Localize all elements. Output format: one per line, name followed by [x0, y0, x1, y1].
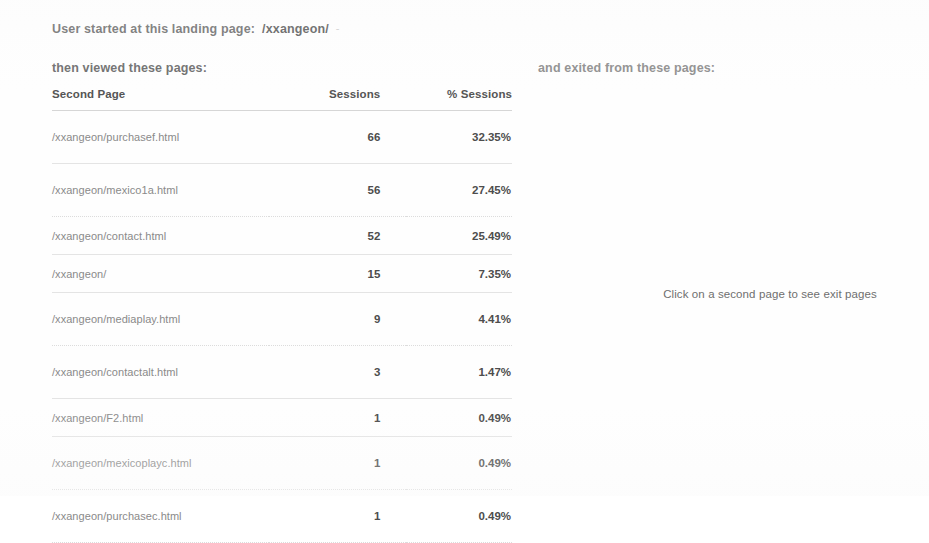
table-row[interactable]: /xxangeon/mexicoplayc.html 1 0.49% [52, 437, 512, 490]
page-url: /xxangeon/mexicoplayc.html [52, 456, 196, 470]
table-row[interactable]: /xxangeon/F2.html 1 0.49% [52, 399, 512, 437]
cell-second-page[interactable]: /xxangeon/mexicoplayc.html [52, 437, 269, 490]
cell-pct-sessions: 0.49% [406, 490, 512, 543]
table-row[interactable]: /xxangeon/contactalt.html 3 1.47% [52, 346, 512, 399]
landing-page-trailing-mark: - [336, 22, 340, 34]
cell-second-page[interactable]: /xxangeon/purchasef.html [52, 111, 269, 164]
cell-second-page[interactable]: /xxangeon/ [52, 255, 269, 293]
exited-from-heading: and exited from these pages: [538, 61, 715, 75]
then-viewed-heading: then viewed these pages: [52, 61, 207, 75]
cell-pct-sessions: 7.35% [406, 255, 512, 293]
cell-pct-sessions: 27.45% [406, 164, 512, 217]
table-row[interactable]: /xxangeon/contact.html 52 25.49% [52, 217, 512, 255]
cell-second-page[interactable]: /xxangeon/mexico1a.html [52, 164, 269, 217]
cell-pct-sessions: 0.49% [406, 437, 512, 490]
page-url: /xxangeon/contactalt.html [52, 365, 196, 379]
cell-pct-sessions: 0.49% [406, 399, 512, 437]
landing-page-value: /xxangeon/ [262, 22, 329, 36]
exit-pages-hint: Click on a second page to see exit pages [560, 288, 929, 300]
landing-page-label: User started at this landing page: [52, 22, 255, 36]
cell-sessions: 1 [269, 437, 407, 490]
cell-second-page[interactable]: /xxangeon/contact.html [52, 217, 269, 255]
cell-second-page[interactable]: /xxangeon/F2.html [52, 399, 269, 437]
table-body: /xxangeon/purchasef.html 66 32.35% /xxan… [52, 111, 512, 543]
cell-sessions: 9 [269, 293, 407, 346]
cell-second-page[interactable]: /xxangeon/purchasec.html [52, 490, 269, 543]
table-row[interactable]: /xxangeon/mexico1a.html 56 27.45% [52, 164, 512, 217]
cell-sessions: 1 [269, 490, 407, 543]
cell-second-page[interactable]: /xxangeon/contactalt.html [52, 346, 269, 399]
cell-sessions: 15 [269, 255, 407, 293]
table-header-row: Second Page Sessions % Sessions [52, 88, 512, 111]
table-row[interactable]: /xxangeon/purchasec.html 1 0.49% [52, 490, 512, 543]
cell-sessions: 1 [269, 399, 407, 437]
column-header-second-page[interactable]: Second Page [52, 88, 269, 111]
page-url: /xxangeon/mexico1a.html [52, 183, 196, 197]
page-url: /xxangeon/contact.html [52, 229, 196, 243]
cell-second-page[interactable]: /xxangeon/mediaplay.html [52, 293, 269, 346]
column-header-sessions[interactable]: Sessions [269, 88, 407, 111]
table-row[interactable]: /xxangeon/ 15 7.35% [52, 255, 512, 293]
page-url: /xxangeon/mediaplay.html [52, 312, 196, 326]
cell-pct-sessions: 32.35% [406, 111, 512, 164]
page-url: /xxangeon/ [52, 267, 196, 281]
cell-sessions: 52 [269, 217, 407, 255]
table-header: Second Page Sessions % Sessions [52, 88, 512, 111]
column-header-pct-sessions[interactable]: % Sessions [406, 88, 512, 111]
cell-pct-sessions: 1.47% [406, 346, 512, 399]
cell-pct-sessions: 4.41% [406, 293, 512, 346]
table-row[interactable]: /xxangeon/mediaplay.html 9 4.41% [52, 293, 512, 346]
second-pages-table: Second Page Sessions % Sessions /xxangeo… [52, 88, 512, 543]
cell-sessions: 66 [269, 111, 407, 164]
page-url: /xxangeon/purchasef.html [52, 130, 196, 144]
cell-sessions: 56 [269, 164, 407, 217]
page-url: /xxangeon/F2.html [52, 411, 196, 425]
page-url: /xxangeon/purchasec.html [52, 509, 196, 523]
landing-page-heading: User started at this landing page:/xxang… [52, 22, 340, 36]
cell-sessions: 3 [269, 346, 407, 399]
table-row[interactable]: /xxangeon/purchasef.html 66 32.35% [52, 111, 512, 164]
cell-pct-sessions: 25.49% [406, 217, 512, 255]
